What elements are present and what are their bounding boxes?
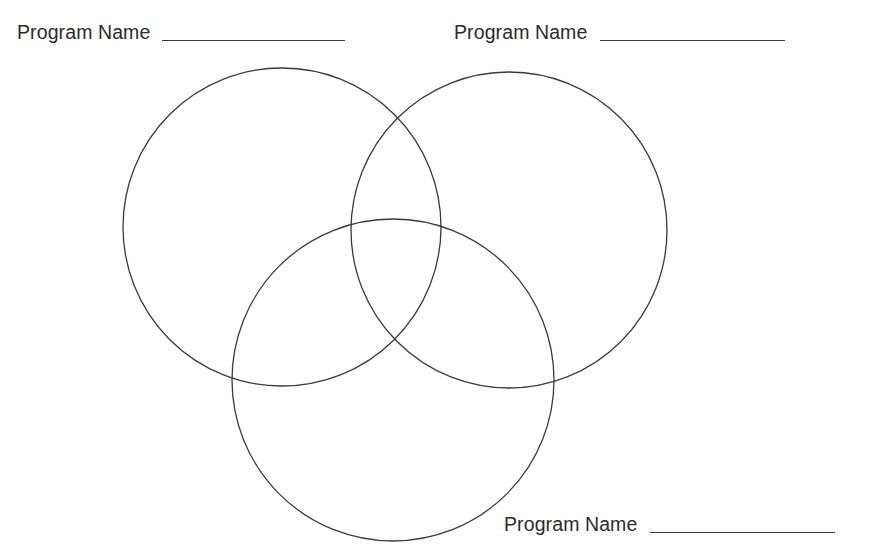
program-name-blank-line[interactable] bbox=[650, 531, 835, 533]
venn-circle-bottom[interactable] bbox=[232, 219, 554, 541]
program-name-label-top-left: Program Name bbox=[17, 23, 345, 43]
program-name-text: Program Name bbox=[454, 23, 587, 43]
program-name-label-bottom-right: Program Name bbox=[504, 515, 835, 535]
program-name-text: Program Name bbox=[504, 515, 637, 535]
program-name-blank-line[interactable] bbox=[162, 39, 345, 41]
program-name-label-top-right: Program Name bbox=[454, 23, 785, 43]
program-name-blank-line[interactable] bbox=[600, 39, 785, 41]
program-name-text: Program Name bbox=[17, 23, 150, 43]
worksheet-page: Program Name Program Name Program Name bbox=[0, 0, 891, 553]
venn-diagram bbox=[0, 0, 891, 553]
